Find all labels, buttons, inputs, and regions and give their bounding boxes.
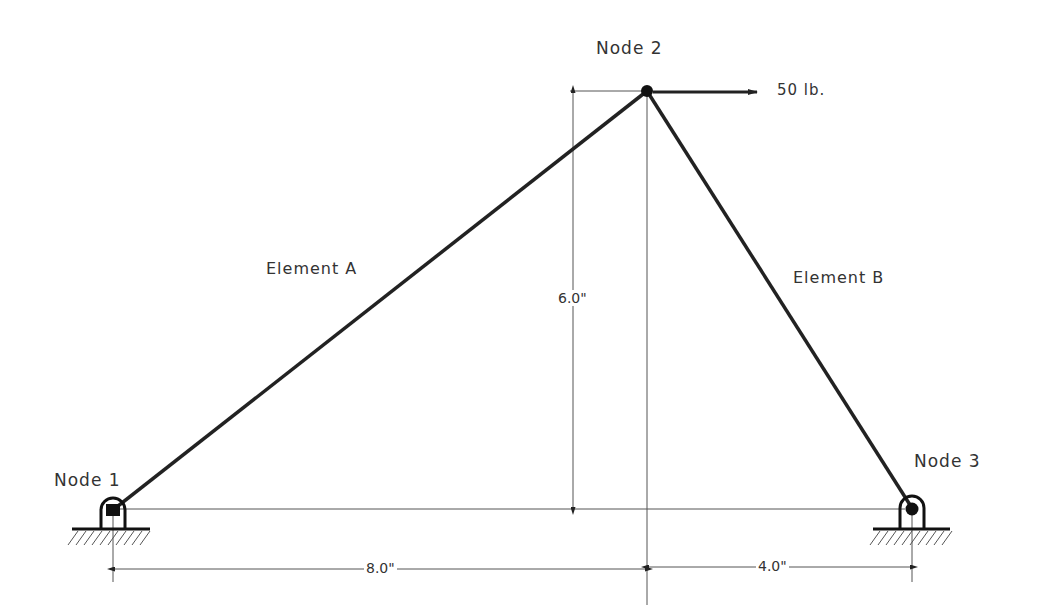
reference-lines (113, 91, 912, 605)
node-1-label: Node 1 (54, 470, 121, 490)
node-2-joint (641, 85, 653, 97)
node-1-pin-support (68, 498, 150, 545)
span-dimension-lines (115, 567, 910, 569)
load-label: 50 lb. (777, 81, 825, 99)
element-b-label: Element B (793, 268, 884, 287)
node-2-label: Node 2 (596, 38, 663, 58)
element-b-member (647, 91, 912, 508)
node-3-pin-support (870, 496, 952, 545)
node-3-label: Node 3 (914, 451, 981, 471)
element-a-label: Element A (266, 259, 357, 278)
height-dimension-label: 6.0" (556, 290, 589, 306)
diagram-drawing (0, 0, 1049, 610)
truss-diagram: Node 1 Node 2 Node 3 Element A Element B… (0, 0, 1049, 610)
right-span-dimension-label: 4.0" (756, 558, 789, 574)
left-span-dimension-label: 8.0" (364, 560, 397, 576)
